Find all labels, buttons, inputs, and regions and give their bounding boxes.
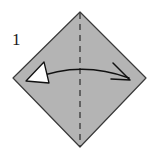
figure-root: 1 (0, 0, 158, 148)
origami-diagram: 1 (0, 0, 158, 148)
step-number-label: 1 (12, 30, 21, 49)
